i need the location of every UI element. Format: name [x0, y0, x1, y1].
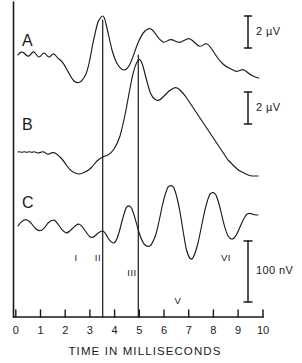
- x-tick-label-3: 3: [84, 325, 96, 336]
- x-tick-label-10: 10: [255, 325, 271, 336]
- scale-bar-c-label: 100 nV: [256, 265, 293, 276]
- wave-label-vi: VI: [219, 253, 233, 263]
- trace-label-c: C: [22, 195, 34, 211]
- trace-label-b: B: [22, 117, 33, 133]
- scale-bar-a: [245, 16, 252, 48]
- wave-label-iii: III: [125, 268, 139, 278]
- x-tick-label-7: 7: [183, 325, 195, 336]
- x-axis-ticks: [16, 310, 238, 317]
- x-tick-label-4: 4: [109, 325, 121, 336]
- scale-bar-b-label: 2 µV: [256, 102, 280, 113]
- scale-bar-a-label: 2 µV: [256, 26, 280, 37]
- x-tick-label-0: 0: [10, 325, 22, 336]
- x-axis-title: TIME IN MILLISECONDS: [0, 346, 290, 358]
- x-tick-label-2: 2: [59, 325, 71, 336]
- trace-label-a: A: [22, 33, 33, 49]
- plot-canvas: [0, 0, 302, 363]
- scale-bar-c: [244, 241, 252, 302]
- wave-label-ii: II: [92, 253, 104, 263]
- x-tick-label-8: 8: [207, 325, 219, 336]
- x-tick-label-1: 1: [35, 325, 47, 336]
- wave-label-i: I: [70, 253, 82, 263]
- scale-bar-b: [245, 92, 252, 124]
- x-tick-label-9: 9: [232, 325, 244, 336]
- x-tick-label-5: 5: [133, 325, 145, 336]
- abr-waveform-figure: A B C 2 µV 2 µV 100 nV I II III V VI 0 1…: [0, 0, 302, 363]
- wave-label-v: V: [172, 296, 184, 306]
- x-tick-label-6: 6: [158, 325, 170, 336]
